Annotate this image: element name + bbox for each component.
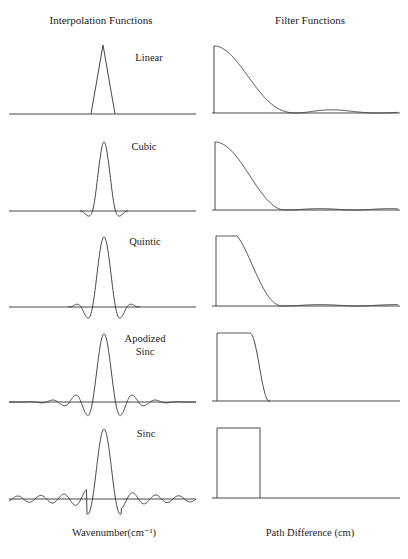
left-x-axis-label: Wavenumber(cm⁻¹) [72, 527, 156, 539]
row-label-sinc: Sinc [137, 428, 156, 440]
quintic-interp-curve [68, 237, 140, 318]
row-label-apodized: Apodized [125, 333, 166, 345]
cubic-filter-curve [215, 142, 398, 210]
interpolation-plots [9, 45, 196, 514]
sinc-interp-curve [9, 429, 196, 514]
sinc-filter-boxcar [217, 428, 260, 498]
apodized-sinc-interp-curve [9, 334, 196, 416]
row-label-linear: Linear [135, 52, 162, 64]
interpolation-column-title: Interpolation Functions [50, 14, 153, 26]
linear-filter-curve [214, 46, 398, 113]
cubic-interp-curve [80, 142, 128, 216]
row-label-apodized-line2: Sinc [136, 346, 155, 358]
quintic-filter-curve [216, 236, 398, 306]
filter-plots [212, 46, 400, 498]
row-label-cubic: Cubic [131, 141, 156, 153]
filter-column-title: Filter Functions [275, 14, 345, 26]
right-x-axis-label: Path Difference (cm) [266, 527, 354, 539]
linear-interp-curve [91, 45, 115, 114]
figure-canvas [0, 0, 408, 559]
apodized-sinc-filter-curve [217, 333, 270, 401]
row-label-quintic: Quintic [129, 236, 161, 248]
